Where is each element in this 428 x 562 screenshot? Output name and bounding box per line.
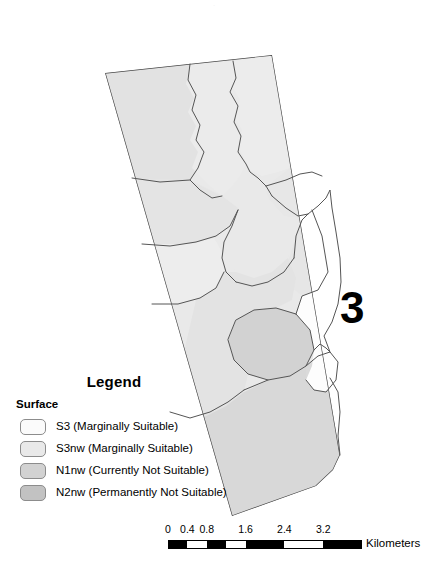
scale-bar-units: Kilometers xyxy=(366,538,420,550)
scale-bar-ticks: 00.40.81.62.43.2 xyxy=(168,524,418,538)
legend-swatch-s3 xyxy=(20,419,46,435)
legend-label-s3nw: S3nw (Marginally Suitable) xyxy=(56,443,193,455)
legend-label-s3: S3 (Marginally Suitable) xyxy=(56,421,178,433)
map-number-label: 3 xyxy=(340,286,363,330)
scale-segment-3 xyxy=(226,540,245,549)
legend-item-s3: S3 (Marginally Suitable) xyxy=(14,417,264,438)
scale-bar: 00.40.81.62.43.2 Kilometers xyxy=(168,524,418,558)
scale-segment-4 xyxy=(246,540,285,549)
legend-group-title: Surface xyxy=(16,399,264,411)
legend-swatch-s3nw xyxy=(20,441,46,457)
scale-tick-0: 0 xyxy=(165,524,171,535)
scale-segment-6 xyxy=(323,540,362,549)
map-figure: . xyxy=(0,0,428,562)
scale-tick-2.4: 2.4 xyxy=(277,524,292,535)
legend-item-n1nw: N1nw (Currently Not Suitable) xyxy=(14,461,264,482)
scale-segment-0 xyxy=(168,540,187,549)
legend-swatch-n2nw xyxy=(20,485,46,501)
legend-label-n1nw: N1nw (Currently Not Suitable) xyxy=(56,465,209,477)
legend-item-n2nw: N2nw (Permanently Not Suitable) xyxy=(14,483,264,504)
scale-tick-1.6: 1.6 xyxy=(238,524,253,535)
legend-item-s3nw: S3nw (Marginally Suitable) xyxy=(14,439,264,460)
legend-title: Legend xyxy=(14,374,214,389)
legend-swatch-n1nw xyxy=(20,463,46,479)
scale-segment-1 xyxy=(187,540,206,549)
scale-segment-5 xyxy=(284,540,323,549)
scale-tick-0.4: 0.4 xyxy=(180,524,195,535)
scale-tick-3.2: 3.2 xyxy=(316,524,331,535)
scale-tick-0.8: 0.8 xyxy=(199,524,214,535)
scale-bar-segments xyxy=(168,540,362,549)
scale-segment-2 xyxy=(207,540,226,549)
legend: Legend Surface S3 (Marginally Suitable) … xyxy=(14,374,264,505)
legend-label-n2nw: N2nw (Permanently Not Suitable) xyxy=(56,487,227,499)
